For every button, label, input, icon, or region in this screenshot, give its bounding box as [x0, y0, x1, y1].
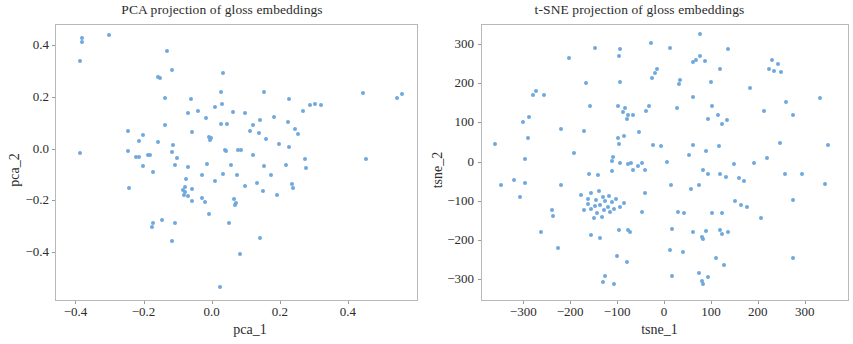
data-point	[691, 230, 695, 234]
data-point	[293, 127, 297, 131]
data-point	[186, 111, 190, 115]
data-point	[170, 150, 174, 154]
y-tick-label: 100	[455, 114, 475, 130]
data-point	[726, 230, 730, 234]
data-point	[272, 115, 276, 119]
data-point	[204, 116, 208, 120]
y-tick-mark	[52, 45, 55, 46]
data-point	[742, 179, 746, 183]
data-point	[611, 155, 615, 159]
data-point	[765, 156, 769, 160]
data-point	[262, 164, 266, 168]
data-point	[670, 274, 674, 278]
y-tick-mark	[478, 240, 481, 241]
data-point	[691, 143, 695, 147]
data-point	[593, 204, 597, 208]
data-point	[229, 163, 233, 167]
data-point	[724, 175, 728, 179]
data-point	[706, 275, 710, 279]
data-point	[559, 127, 563, 131]
data-point	[261, 189, 265, 193]
y-tick-label: 0.0	[33, 141, 49, 157]
data-point	[678, 78, 682, 82]
data-point	[612, 207, 616, 211]
data-point	[767, 67, 771, 71]
data-point	[148, 153, 152, 157]
data-point	[704, 149, 708, 153]
data-point	[823, 182, 827, 186]
data-point	[772, 69, 776, 73]
data-point	[262, 90, 266, 94]
data-point	[364, 157, 368, 161]
data-point	[126, 149, 130, 153]
y-tick-mark	[52, 200, 55, 201]
data-point	[213, 105, 217, 109]
data-point	[175, 156, 179, 160]
data-point	[589, 191, 593, 195]
data-point	[748, 86, 752, 90]
data-point	[512, 178, 516, 182]
data-point	[137, 139, 141, 143]
data-point	[647, 104, 651, 108]
data-point	[239, 148, 243, 152]
tsne-panel: t-SNE projection of gloss embeddings tsn…	[420, 0, 839, 344]
data-point	[173, 163, 177, 167]
data-point	[651, 143, 655, 147]
data-point	[733, 199, 737, 203]
data-point	[534, 89, 538, 93]
data-point	[791, 113, 795, 117]
data-point	[601, 280, 605, 284]
data-point	[598, 236, 602, 240]
data-point	[243, 111, 247, 115]
data-point	[200, 173, 204, 177]
x-tick-label: 0.4	[340, 304, 356, 320]
data-point	[759, 216, 763, 220]
data-point	[586, 197, 590, 201]
data-point	[701, 282, 705, 286]
pca-panel: PCA projection of gloss embeddings pca_1…	[0, 0, 420, 344]
data-point	[361, 91, 365, 95]
y-tick-label: 0.4	[33, 37, 49, 53]
data-point	[602, 208, 606, 212]
data-point	[269, 173, 273, 177]
data-point	[589, 207, 593, 211]
data-point	[286, 120, 290, 124]
data-point	[163, 96, 167, 100]
data-point	[745, 205, 749, 209]
data-point	[665, 160, 669, 164]
data-point	[595, 211, 599, 215]
data-point	[284, 163, 288, 167]
data-point	[616, 104, 620, 108]
data-point	[720, 211, 724, 215]
data-point	[521, 120, 525, 124]
data-point	[732, 162, 736, 166]
data-point	[716, 113, 720, 117]
data-point	[395, 96, 399, 100]
data-point	[655, 67, 659, 71]
y-tick-mark	[478, 83, 481, 84]
data-point	[189, 97, 193, 101]
data-point	[616, 136, 620, 140]
data-point	[770, 58, 774, 62]
data-point	[151, 170, 155, 174]
data-point	[791, 256, 795, 260]
data-point	[783, 172, 787, 176]
x-tick-label: 0.0	[204, 304, 220, 320]
data-point	[208, 138, 212, 142]
data-point	[710, 211, 714, 215]
y-tick-label: −0.4	[25, 244, 49, 260]
data-point	[258, 236, 262, 240]
y-tick-label: −300	[447, 271, 474, 287]
data-point	[596, 173, 600, 177]
y-tick-mark	[478, 162, 481, 163]
data-point	[608, 210, 612, 214]
data-point	[697, 183, 701, 187]
data-point	[691, 60, 695, 64]
data-point	[308, 103, 312, 107]
data-point	[737, 176, 741, 180]
data-point	[582, 129, 586, 133]
data-point	[614, 197, 618, 201]
data-point	[150, 225, 154, 229]
data-point	[681, 250, 685, 254]
y-tick-mark	[478, 279, 481, 280]
